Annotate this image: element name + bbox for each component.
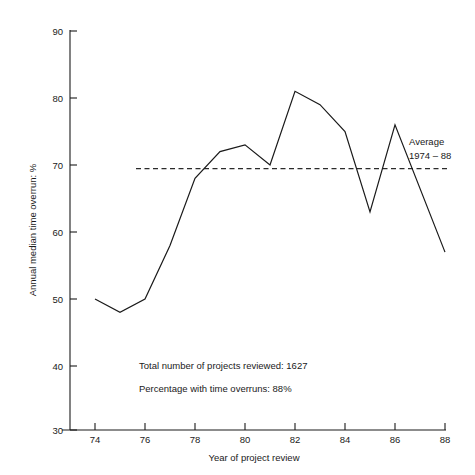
chart-figure: 90 80 70 60 50 40 30 74 76 78 80 82 84: [0, 0, 475, 475]
x-tick-label-76: 76: [140, 434, 151, 445]
x-axis-ticks: [95, 423, 445, 430]
y-tick-label-80: 80: [52, 93, 63, 104]
x-tick-label-82: 82: [290, 434, 301, 445]
y-tick-label-60: 60: [52, 227, 63, 238]
average-label-line2: 1974 – 88: [409, 150, 451, 161]
average-label-line1: Average: [409, 136, 444, 147]
y-tick-label-40: 40: [52, 361, 63, 372]
average-annotation: Average 1974 – 88: [409, 136, 451, 161]
x-axis-tick-labels: 74 76 78 80 82 84 86 88: [90, 434, 451, 445]
x-tick-label-80: 80: [240, 434, 251, 445]
data-series-line: [95, 91, 445, 312]
note-total-projects: Total number of projects reviewed: 1627: [139, 360, 307, 371]
y-axis-title: Annual median time overrun: %: [27, 163, 38, 296]
x-axis-title: Year of project review: [208, 452, 299, 463]
chart-notes: Total number of projects reviewed: 1627 …: [139, 360, 307, 394]
y-tick-label-70: 70: [52, 160, 63, 171]
x-tick-label-88: 88: [440, 434, 451, 445]
y-tick-label-90: 90: [52, 26, 63, 37]
line-chart: 90 80 70 60 50 40 30 74 76 78 80 82 84: [0, 0, 475, 475]
y-axis-ticks: [70, 31, 77, 430]
x-tick-label-86: 86: [390, 434, 401, 445]
y-tick-label-30: 30: [52, 425, 63, 436]
y-axis-tick-labels: 90 80 70 60 50 40 30: [52, 26, 63, 436]
y-tick-label-50: 50: [52, 294, 63, 305]
x-tick-label-78: 78: [190, 434, 201, 445]
x-tick-label-84: 84: [340, 434, 351, 445]
x-tick-label-74: 74: [90, 434, 101, 445]
note-percentage-overruns: Percentage with time overruns: 88%: [139, 383, 292, 394]
